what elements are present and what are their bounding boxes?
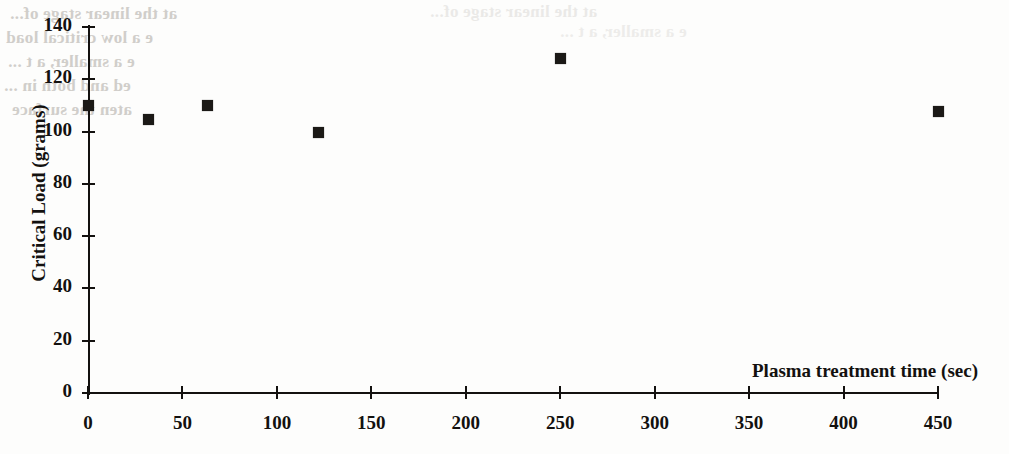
y-axis-tick-label: 40 <box>0 275 72 297</box>
data-point-marker <box>313 127 324 138</box>
x-axis-line <box>88 392 939 394</box>
x-axis-tick <box>843 386 845 399</box>
x-axis-tick-label: 450 <box>898 412 978 434</box>
y-axis-tick <box>82 340 95 342</box>
x-axis-tick-label: 250 <box>520 412 600 434</box>
y-axis-tick <box>82 235 95 237</box>
bleed-through-line: at the linear stage of... <box>430 2 597 22</box>
y-axis-tick <box>82 131 95 133</box>
y-axis-tick <box>82 78 95 80</box>
data-point-marker <box>143 114 154 125</box>
x-axis-tick-label: 350 <box>709 412 789 434</box>
x-axis-tick <box>87 386 89 399</box>
bleed-through-text-layer: at the linear stage of... e a low critic… <box>0 0 1009 454</box>
x-axis-tick <box>937 386 939 399</box>
y-axis-tick-label: 140 <box>0 14 72 36</box>
x-axis-tick <box>370 386 372 399</box>
bleed-through-line: e a smaller, a t ... <box>560 22 687 42</box>
data-point-marker <box>83 100 94 111</box>
x-axis-tick-label: 300 <box>615 412 695 434</box>
y-axis-tick-label: 0 <box>0 380 72 402</box>
x-axis-title: Plasma treatment time (sec) <box>752 360 978 382</box>
y-axis-tick-label: 100 <box>0 119 72 141</box>
y-axis-title: Critical Load (grams) <box>28 78 50 308</box>
x-axis-tick-label: 150 <box>331 412 411 434</box>
x-axis-tick <box>181 386 183 399</box>
y-axis-tick <box>82 183 95 185</box>
data-point-marker <box>555 53 566 64</box>
x-axis-tick <box>654 386 656 399</box>
y-axis-tick-label: 60 <box>0 223 72 245</box>
data-point-marker <box>933 106 944 117</box>
x-axis-tick <box>748 386 750 399</box>
x-axis-tick-label: 50 <box>142 412 222 434</box>
x-axis-tick-label: 200 <box>426 412 506 434</box>
scatter-plot-figure: at the linear stage of... e a low critic… <box>0 0 1009 454</box>
x-axis-tick-label: 100 <box>237 412 317 434</box>
x-axis-tick <box>465 386 467 399</box>
y-axis-tick <box>82 287 95 289</box>
x-axis-tick <box>559 386 561 399</box>
y-axis-tick-label: 20 <box>0 328 72 350</box>
x-axis-tick <box>276 386 278 399</box>
y-axis-tick <box>82 26 95 28</box>
data-point-marker <box>202 100 213 111</box>
y-axis-tick-label: 80 <box>0 171 72 193</box>
x-axis-tick-label: 0 <box>48 412 128 434</box>
x-axis-tick-label: 400 <box>804 412 884 434</box>
y-axis-tick-label: 120 <box>0 66 72 88</box>
